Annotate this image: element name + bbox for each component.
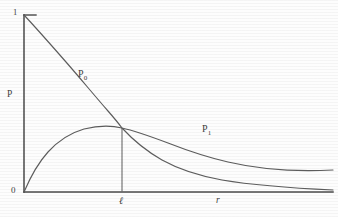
x-axis-label: r [216, 196, 220, 206]
curve-p0-path [24, 15, 333, 190]
y-axis-max-label: 1 [13, 8, 17, 17]
curve-label-p0-base: P [78, 68, 84, 79]
curve-label-p0: P0 [78, 69, 87, 82]
x-axis-ell-tick-label: ℓ [119, 196, 123, 206]
curve-p1-path [24, 126, 333, 192]
curve-label-p0-subscript: 0 [84, 74, 88, 82]
y-axis-label: P [7, 90, 12, 100]
plot-svg [0, 0, 338, 217]
curve-label-p1: P1 [202, 124, 211, 137]
curve-label-p1-base: P [202, 123, 208, 134]
curve-label-p1-subscript: 1 [208, 129, 212, 137]
figure-canvas: 1 0 P ℓ r P0 P1 [0, 0, 338, 217]
origin-label: 0 [11, 186, 16, 195]
